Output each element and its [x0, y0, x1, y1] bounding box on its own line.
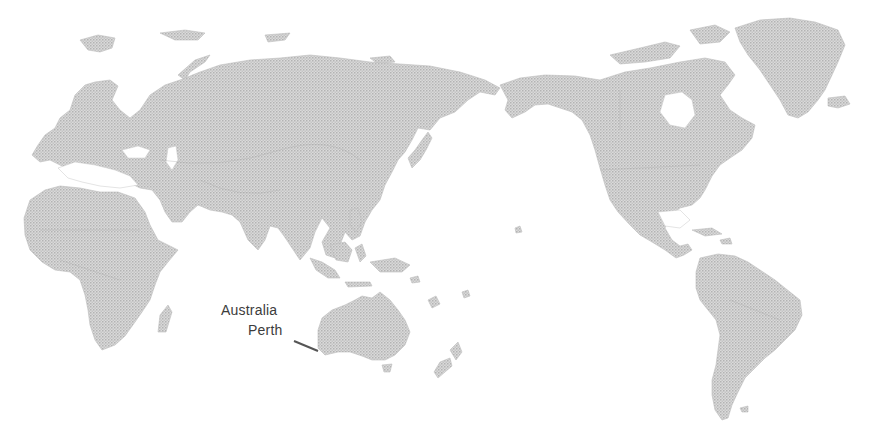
canadian-arctic-islands [610, 25, 730, 64]
africa [24, 186, 178, 350]
country-label: Australia [221, 302, 277, 318]
tasmania [382, 364, 392, 372]
perth-leader-line [294, 341, 318, 351]
australia [318, 292, 410, 360]
north-america [500, 58, 755, 258]
falkland-islands [740, 406, 748, 412]
new-zealand [450, 342, 462, 360]
world-map: Australia Perth [0, 0, 890, 445]
city-label: Perth [248, 322, 282, 338]
south-america [696, 254, 802, 420]
iceland [828, 96, 850, 108]
pacific-islands [410, 226, 522, 308]
caribbean-islands [692, 228, 732, 244]
madagascar [158, 305, 172, 332]
world-map-graphic [0, 0, 890, 445]
